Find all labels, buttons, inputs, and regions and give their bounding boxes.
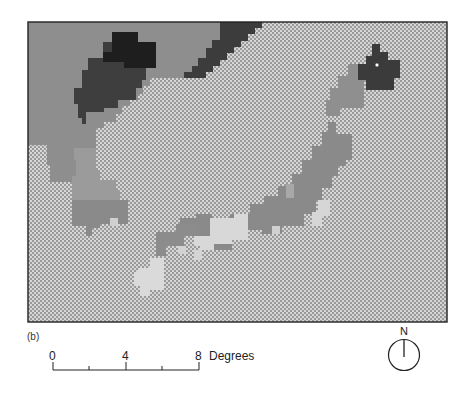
light-cell: [110, 218, 118, 226]
scale-tick-4: 4: [122, 349, 129, 363]
light-cell: [194, 250, 202, 260]
scale-unit-label: Degrees: [209, 349, 254, 363]
scale-tick-0: 0: [49, 349, 56, 363]
north-arrow: N: [389, 325, 420, 371]
location-marker: [375, 63, 379, 67]
scale-bar: 0 4 8 Degrees: [49, 349, 254, 370]
light-cell: [286, 184, 294, 198]
scale-tick-8: 8: [195, 349, 202, 363]
light-cell: [272, 226, 280, 234]
panel-label: (b): [27, 331, 39, 342]
raster-map: 0 4 8 Degrees N: [0, 0, 467, 399]
north-label: N: [400, 325, 408, 337]
light-cell: [178, 246, 186, 254]
